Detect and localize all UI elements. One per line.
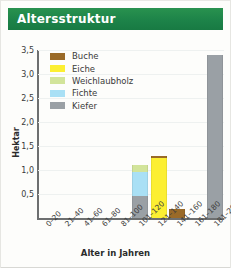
legend-item[interactable]: Weichlaubholz xyxy=(50,75,170,87)
legend-swatch-icon xyxy=(50,102,65,109)
y-tick-label: 3,0 xyxy=(4,70,34,79)
legend-item[interactable]: Buche xyxy=(50,50,170,62)
legend-label: Eiche xyxy=(72,64,95,74)
legend-swatch-icon xyxy=(50,65,65,72)
legend-item[interactable]: Kiefer xyxy=(50,100,170,112)
y-axis-label: Hektar xyxy=(12,121,21,165)
bar-chart: 0,51,01,52,02,53,03,5 Hektar 0–2021–4041… xyxy=(0,34,231,268)
bar-group[interactable] xyxy=(205,50,224,218)
x-axis-ticks: 0–2021–4041–6061–8081–100101–120121–1401… xyxy=(38,220,224,266)
bar-segment-kiefer[interactable] xyxy=(207,55,223,218)
bar-segment-fichte[interactable] xyxy=(132,172,148,196)
y-tick-label: 3,5 xyxy=(4,46,34,55)
y-tick-label: 2,5 xyxy=(4,94,34,103)
legend-label: Weichlaubholz xyxy=(72,76,133,86)
x-axis-label: Alter in Jahren xyxy=(0,248,231,258)
title-banner: Altersstruktur xyxy=(8,8,223,30)
y-tick-label: 1,0 xyxy=(4,166,34,175)
legend-item[interactable]: Fichte xyxy=(50,87,170,99)
page-edge-top xyxy=(0,0,231,1)
bar-group[interactable] xyxy=(187,50,206,218)
legend-label: Kiefer xyxy=(72,101,97,111)
chart-legend: BucheEicheWeichlaubholzFichteKiefer xyxy=(50,50,170,112)
legend-item[interactable]: Eiche xyxy=(50,62,170,74)
legend-label: Buche xyxy=(72,51,99,61)
bar-group[interactable] xyxy=(168,50,187,218)
legend-label: Fichte xyxy=(72,88,97,98)
legend-swatch-icon xyxy=(50,53,65,60)
page-title: Altersstruktur xyxy=(8,12,116,26)
chart-page: Altersstruktur 0,51,01,52,02,53,03,5 Hek… xyxy=(0,0,231,268)
bar-segment-weichlaubholz[interactable] xyxy=(132,165,148,172)
legend-swatch-icon xyxy=(50,90,65,97)
y-tick-label: 0,5 xyxy=(4,190,34,199)
legend-swatch-icon xyxy=(50,77,65,84)
